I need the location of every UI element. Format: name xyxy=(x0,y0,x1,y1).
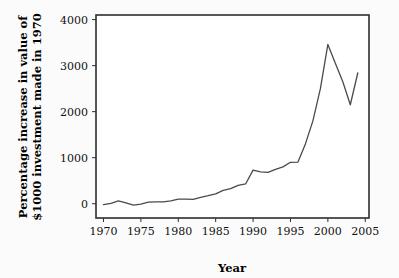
x-tick-label: 1975 xyxy=(127,225,155,238)
y-tick-label: 2000 xyxy=(60,106,88,119)
y-axis-title-line2: $1000 investment made in 1970 xyxy=(30,13,44,220)
x-axis-ticks: 19701975198019851990199520002005 xyxy=(89,218,379,238)
y-tick-label: 0 xyxy=(81,198,88,211)
chart-figure: 01000200030004000 1970197519801985199019… xyxy=(0,0,399,278)
x-tick-label: 1980 xyxy=(164,225,192,238)
y-tick-label: 3000 xyxy=(60,60,88,73)
y-tick-label: 1000 xyxy=(60,152,88,165)
y-axis-title: Percentage increase in value of $1000 in… xyxy=(16,13,44,220)
y-tick-label: 4000 xyxy=(60,14,88,27)
x-tick-label: 1985 xyxy=(202,225,230,238)
x-tick-label: 1990 xyxy=(239,225,267,238)
x-tick-label: 2000 xyxy=(314,225,342,238)
x-tick-label: 2005 xyxy=(351,225,379,238)
y-axis-title-line1: Percentage increase in value of xyxy=(16,15,30,218)
x-tick-label: 1995 xyxy=(276,225,304,238)
x-axis-title: Year xyxy=(217,261,247,275)
x-tick-label: 1970 xyxy=(89,225,117,238)
y-axis-ticks: 01000200030004000 xyxy=(60,14,96,211)
line-chart: 01000200030004000 1970197519801985199019… xyxy=(0,0,399,278)
